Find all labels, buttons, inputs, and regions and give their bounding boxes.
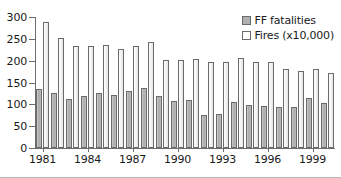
bar-ff-fatalities-1991 <box>186 100 192 148</box>
legend-label-ff-fatalities: FF fatalities <box>255 14 316 27</box>
bar-ff-fatalities-1989 <box>156 96 162 148</box>
y-axis-label-0: 0 <box>0 143 27 154</box>
x-axis-label-1990: 1990 <box>164 154 191 166</box>
bar-fires-1999 <box>313 69 319 148</box>
bar-group <box>35 17 50 148</box>
bar-ff-fatalities-1999 <box>306 98 312 148</box>
bar-fires-1989 <box>163 60 169 148</box>
bar-chart-figure: 050100150200250300 198119841987199019931… <box>0 0 341 178</box>
bar-group <box>215 17 230 148</box>
bar-ff-fatalities-1997 <box>276 107 282 148</box>
bar-fires-1986 <box>118 49 124 148</box>
bar-group <box>170 17 185 148</box>
bar-ff-fatalities-1995 <box>246 105 252 148</box>
y-tick-0 <box>29 148 35 149</box>
y-axis-label-50: 50 <box>0 121 27 132</box>
x-axis-label-1981: 1981 <box>29 154 56 166</box>
bar-ff-fatalities-1988 <box>141 88 147 148</box>
bar-fires-1981 <box>43 22 49 148</box>
bar-ff-fatalities-1986 <box>111 95 117 148</box>
legend-item-ff-fatalities: FF fatalities <box>242 14 334 27</box>
bar-fires-1992 <box>208 62 214 148</box>
y-axis-label-200: 200 <box>0 55 27 66</box>
x-axis-line <box>35 148 335 149</box>
bar-group <box>185 17 200 148</box>
x-axis-label-1993: 1993 <box>209 154 236 166</box>
bar-ff-fatalities-1981 <box>36 89 42 148</box>
x-axis-label-1996: 1996 <box>254 154 281 166</box>
bar-ff-fatalities-1990 <box>171 101 177 148</box>
x-tick-1996 <box>268 148 269 152</box>
x-axis-label-1984: 1984 <box>74 154 101 166</box>
bar-group <box>95 17 110 148</box>
x-tick-1999 <box>313 148 314 152</box>
bar-ff-fatalities-2000 <box>321 103 327 148</box>
x-tick-1990 <box>178 148 179 152</box>
bar-group <box>155 17 170 148</box>
x-tick-1984 <box>88 148 89 152</box>
x-axis-label-1999: 1999 <box>299 154 326 166</box>
bar-ff-fatalities-1982 <box>51 93 57 148</box>
x-tick-1981 <box>43 148 44 152</box>
bar-fires-1997 <box>283 69 289 148</box>
bar-group <box>50 17 65 148</box>
bar-ff-fatalities-1996 <box>261 106 267 148</box>
bar-fires-1994 <box>238 58 244 148</box>
bar-fires-1983 <box>73 46 79 148</box>
bar-fires-1988 <box>148 42 154 148</box>
bar-fires-1996 <box>268 62 274 148</box>
bar-fires-1990 <box>178 60 184 148</box>
bar-group <box>200 17 215 148</box>
bar-ff-fatalities-1994 <box>231 102 237 148</box>
bar-fires-1995 <box>253 62 259 148</box>
bar-ff-fatalities-1992 <box>201 115 207 148</box>
y-axis-label-150: 150 <box>0 77 27 88</box>
bar-fires-1993 <box>223 62 229 148</box>
bar-group <box>65 17 80 148</box>
legend-label-fires: Fires (x10,000) <box>255 29 334 42</box>
bar-fires-1984 <box>88 46 94 148</box>
bar-fires-1982 <box>58 38 64 148</box>
bar-ff-fatalities-1984 <box>81 96 87 148</box>
x-axis-label-1987: 1987 <box>119 154 146 166</box>
y-axis-label-300: 300 <box>0 12 27 23</box>
y-axis-label-100: 100 <box>0 99 27 110</box>
bar-fires-1987 <box>133 46 139 148</box>
bar-fires-1985 <box>103 45 109 148</box>
chart-legend: FF fatalities Fires (x10,000) <box>242 14 334 42</box>
bar-fires-2000 <box>328 73 334 148</box>
bar-fires-1991 <box>193 59 199 148</box>
legend-item-fires: Fires (x10,000) <box>242 29 334 42</box>
bar-ff-fatalities-1998 <box>291 107 297 148</box>
bar-ff-fatalities-1985 <box>96 93 102 148</box>
bar-group <box>125 17 140 148</box>
legend-swatch-icon-ff-fatalities <box>242 16 251 25</box>
bar-fires-1998 <box>298 71 304 148</box>
y-axis-label-250: 250 <box>0 33 27 44</box>
bar-group <box>140 17 155 148</box>
x-tick-1987 <box>133 148 134 152</box>
bar-ff-fatalities-1987 <box>126 91 132 148</box>
bar-ff-fatalities-1993 <box>216 114 222 148</box>
x-tick-1993 <box>223 148 224 152</box>
bar-group <box>80 17 95 148</box>
bar-ff-fatalities-1983 <box>66 99 72 148</box>
legend-swatch-icon-fires <box>242 31 251 40</box>
bar-group <box>110 17 125 148</box>
